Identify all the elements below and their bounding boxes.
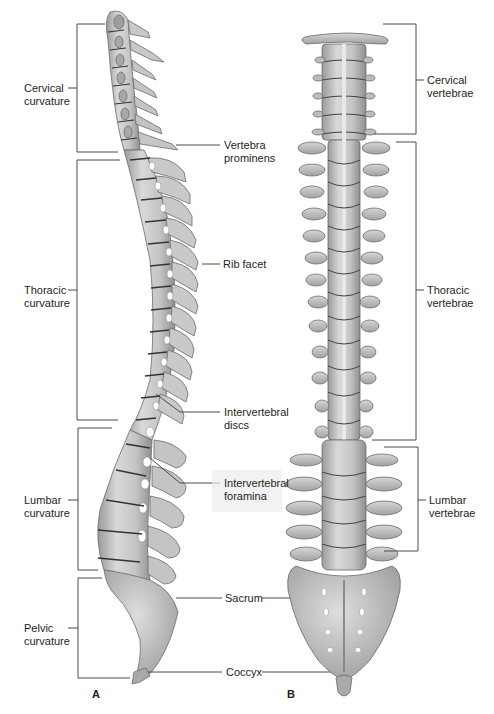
label-cervical-vertebrae: Cervicalvertebrae — [427, 74, 473, 100]
lateral-spine — [98, 11, 198, 684]
spine-illustration — [0, 0, 494, 714]
label-sacrum: Sacrum — [225, 592, 263, 605]
posterior-spine — [286, 33, 402, 696]
bracket-thoracic-curvature — [77, 160, 120, 420]
right-brackets — [372, 24, 426, 551]
label-rib-facet: Rib facet — [223, 258, 266, 271]
label-intervertebral-discs: Intervertebraldiscs — [224, 406, 289, 432]
label-lumbar-curvature: Lumbarcurvature — [24, 494, 70, 520]
label-intervertebral-foramina: Intervertebralforamina — [224, 477, 289, 503]
label-vertebra-prominens: Vertebraprominens — [224, 139, 275, 165]
label-lumbar-vertebrae: Lumbarvertebrae — [429, 494, 475, 520]
label-pelvic-curvature: Pelviccurvature — [24, 622, 70, 648]
panel-label-a: A — [92, 688, 100, 700]
label-coccyx: Coccyx — [226, 666, 262, 679]
label-thoracic-vertebrae: Thoracicvertebrae — [427, 284, 473, 310]
label-cervical-curvature: Cervicalcurvature — [24, 82, 70, 108]
panel-label-b: B — [287, 688, 295, 700]
label-thoracic-curvature: Thoraciccurvature — [24, 284, 70, 310]
